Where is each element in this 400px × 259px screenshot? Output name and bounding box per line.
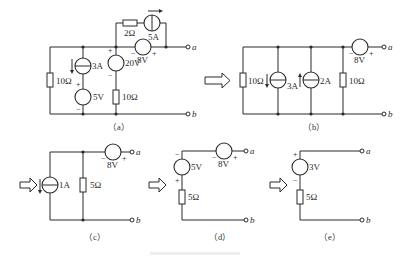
voltage-source-8v — [216, 143, 232, 159]
voltage-source-8v — [352, 39, 368, 55]
circuit-c: 1A 5Ω − + 8V a b （c） — [38, 144, 141, 242]
junction-dot — [276, 112, 279, 115]
terminal-b — [360, 218, 364, 222]
terminal-a-label: a — [388, 42, 393, 52]
junction-dot — [114, 45, 117, 48]
terminal-b-label: b — [388, 109, 393, 119]
junction-dot — [81, 112, 84, 115]
current-source-2a-label: 2A — [320, 76, 332, 86]
caption-a: （a） — [108, 122, 130, 132]
plus-sign: + — [76, 80, 81, 89]
voltage-source-5v-label: 5V — [191, 162, 203, 172]
resistor-5ohm — [80, 178, 86, 192]
terminal-a — [360, 149, 364, 153]
transform-arrow-icon — [270, 178, 287, 192]
voltage-source-5v — [174, 159, 190, 175]
arrow-head-down-icon — [70, 70, 74, 74]
circuit-a: 10Ω 3A + − 5V + − 20V 10Ω 2Ω 5A − + 8V — [47, 9, 197, 132]
voltage-source-8v-label: 8V — [218, 159, 230, 169]
junction-dot — [276, 45, 279, 48]
transform-arrow-icon — [205, 73, 230, 88]
terminal-b-label: b — [192, 109, 197, 119]
resistor-10ohm-right — [340, 73, 346, 87]
resistor-2ohm-label: 2Ω — [124, 28, 136, 38]
resistor-5ohm-label: 5Ω — [306, 192, 318, 202]
junction-dot — [114, 112, 117, 115]
resistor-10ohm-left — [240, 73, 246, 87]
circuit-equivalence-figure: 10Ω 3A + − 5V + − 20V 10Ω 2Ω 5A − + 8V — [0, 0, 400, 259]
terminal-a — [130, 150, 134, 154]
caption-b: （b） — [303, 122, 325, 132]
terminal-a-label: a — [192, 42, 197, 52]
junction-dot — [81, 150, 84, 153]
voltage-source-8v-label: 8V — [137, 55, 149, 65]
terminal-b-label: b — [136, 215, 141, 225]
resistor-10ohm-left-label: 10Ω — [248, 76, 264, 86]
transform-arrow-icon — [149, 178, 166, 192]
current-source-3a-label: 3A — [92, 61, 104, 71]
junction-dot — [309, 112, 312, 115]
arrow-head-down-icon — [265, 84, 269, 88]
resistor-5ohm — [179, 190, 185, 204]
resistor-10ohm-left-label: 10Ω — [56, 76, 72, 86]
terminal-b — [244, 218, 248, 222]
voltage-source-5v-label: 5V — [93, 92, 105, 102]
arrow-head-up-icon — [298, 73, 302, 77]
plus-sign: + — [293, 150, 298, 159]
current-source-1a-label: 1A — [59, 180, 71, 190]
terminal-a-label: a — [366, 146, 371, 156]
junction-dot — [164, 45, 167, 48]
plus-sign: + — [108, 46, 113, 55]
terminal-b — [130, 218, 134, 222]
arrow-head-down-icon — [38, 190, 42, 194]
arrow-head-right-icon — [159, 9, 163, 13]
voltage-source-3v-label: 3V — [309, 162, 321, 172]
terminal-b — [186, 112, 190, 116]
terminal-b-label: b — [366, 215, 371, 225]
plus-sign: + — [152, 49, 157, 58]
resistor-10ohm-right-label: 10Ω — [349, 76, 365, 86]
terminal-b-label: b — [250, 215, 255, 225]
minus-sign: − — [212, 153, 217, 162]
terminal-a — [186, 45, 190, 49]
voltage-source-8v-label: 8V — [354, 55, 366, 65]
figure-caption-faint — [150, 252, 240, 255]
minus-sign: − — [76, 105, 81, 114]
terminal-a-label: a — [136, 147, 141, 157]
minus-sign: − — [175, 150, 180, 159]
circuit-d: − + 5V 5Ω − + 8V a b （d） — [174, 143, 255, 242]
voltage-source-8v — [105, 144, 121, 160]
minus-sign: − — [108, 71, 113, 80]
resistor-5ohm-label: 5Ω — [90, 180, 102, 190]
circuit-e: + − 3V 5Ω a b （e） — [292, 146, 371, 242]
resistor-10ohm-left — [47, 73, 53, 87]
caption-d: （d） — [209, 232, 231, 242]
junction-dot — [309, 45, 312, 48]
resistor-2ohm — [123, 20, 137, 26]
terminal-a — [382, 45, 386, 49]
minus-sign: − — [101, 154, 106, 163]
terminal-b — [382, 112, 386, 116]
plus-sign: + — [369, 49, 374, 58]
current-source-5a-label: 5A — [148, 32, 160, 42]
voltage-source-20v — [108, 55, 124, 71]
terminal-a-label: a — [250, 146, 255, 156]
junction-dot — [81, 218, 84, 221]
voltage-source-8v-label: 8V — [107, 160, 119, 170]
voltage-source-5v — [75, 89, 91, 105]
plus-sign: + — [122, 154, 127, 163]
minus-sign: − — [293, 176, 298, 185]
resistor-5ohm-label: 5Ω — [188, 192, 200, 202]
minus-sign: − — [131, 49, 136, 58]
resistor-5ohm — [297, 190, 303, 204]
transform-arrow-icon — [20, 178, 37, 192]
resistor-10ohm-mid-label: 10Ω — [122, 92, 138, 102]
caption-e: （e） — [319, 232, 341, 242]
junction-dot — [341, 45, 344, 48]
junction-dot — [81, 45, 84, 48]
resistor-10ohm-mid — [113, 90, 119, 104]
voltage-source-3v — [292, 159, 308, 175]
current-source-3a-label: 3A — [287, 81, 299, 91]
caption-c: （c） — [84, 232, 106, 242]
plus-sign: + — [175, 176, 180, 185]
